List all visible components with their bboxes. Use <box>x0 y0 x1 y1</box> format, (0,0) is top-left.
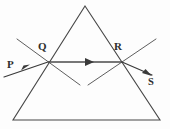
emergent-ray-S-arrowhead <box>142 69 152 76</box>
label-exit-point-R: R <box>114 41 122 52</box>
label-incident-ray-P: P <box>7 59 14 70</box>
figure-canvas <box>0 0 170 129</box>
refracted-ray-QR-arrowhead <box>85 58 94 66</box>
prism-refraction-figure: P Q R S <box>0 0 170 129</box>
label-emergent-ray-S: S <box>148 77 154 88</box>
label-entry-point-Q: Q <box>38 41 47 52</box>
